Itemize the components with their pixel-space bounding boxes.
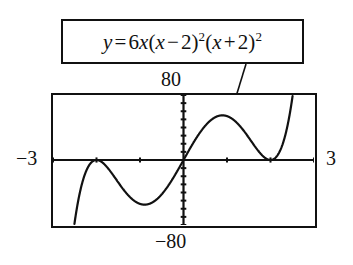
window-xmax-label: 3: [326, 147, 336, 170]
equation-text: y=6x(x−2)2(x+2)2: [103, 29, 262, 55]
window-xmin-label: −3: [16, 147, 37, 170]
equation-coefficient: 6: [128, 30, 139, 54]
equation-factor2-exponent: 2: [255, 29, 262, 44]
equation-factor1-open: (: [148, 30, 155, 54]
equation-variable: x: [139, 30, 148, 54]
equation-factor1-close: ): [192, 30, 199, 54]
equation-factor1-op: −: [165, 30, 181, 54]
equation-factor2-const: 2: [238, 30, 249, 54]
equation-factor2-op: +: [222, 30, 238, 54]
figure-root: y=6x(x−2)2(x+2)2 80 −80 −3 3: [0, 0, 353, 265]
equation-factor1-const: 2: [181, 30, 192, 54]
equation-factor2-var: x: [212, 30, 221, 54]
equation-callout-box: y=6x(x−2)2(x+2)2: [61, 19, 304, 64]
window-ymin-label: −80: [155, 230, 186, 253]
equation-equals: =: [112, 30, 128, 54]
window-ymax-label: 80: [161, 68, 181, 91]
equation-factor1-var: x: [156, 30, 165, 54]
graph-screen-frame: [51, 93, 317, 228]
graph-plot: [53, 95, 314, 225]
